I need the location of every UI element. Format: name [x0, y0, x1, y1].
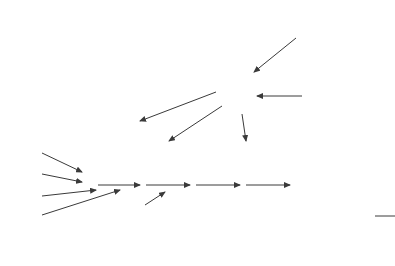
diagram-arrows — [0, 0, 395, 266]
